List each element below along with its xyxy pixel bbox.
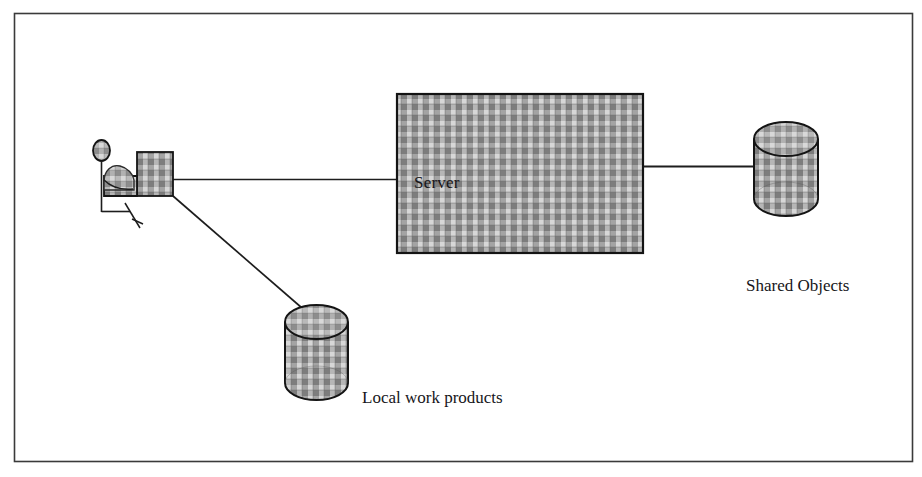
connector-workstation-local-products [173,196,317,321]
local-work-products-cylinder-top [285,305,348,339]
terminal-monitor [137,152,173,196]
server-box[interactable]: Server [397,94,643,253]
server-box-label: Server [414,173,460,192]
local-work-products-label: Local work products [362,388,503,407]
shared-objects-label: Shared Objects [746,276,849,295]
person-leg [125,203,140,228]
workstation-user-figure[interactable] [93,140,173,228]
diagram-canvas: Server Shared Objects Local work pr [0,0,922,477]
person-torso [104,166,134,190]
shared-objects-cylinder[interactable]: Shared Objects [746,122,849,295]
person-head [93,140,110,161]
shared-objects-cylinder-top [754,122,818,156]
local-work-products-cylinder[interactable]: Local work products [285,305,503,407]
architecture-diagram-svg: Server Shared Objects Local work pr [0,0,922,477]
